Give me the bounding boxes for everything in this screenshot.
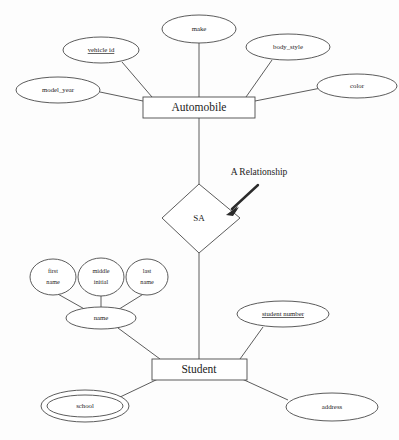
relationship-sa[interactable]: SA xyxy=(162,184,240,253)
connector-vehicle-id xyxy=(122,62,152,97)
connector-model-year xyxy=(100,92,143,101)
attribute-label-school: school xyxy=(76,402,94,409)
attribute-school[interactable]: school xyxy=(41,390,129,422)
annotation-arrow-shaft xyxy=(232,185,258,209)
annotation-a-relationship: A Relationship xyxy=(226,167,288,216)
sub-attribute-last-name[interactable]: last name xyxy=(126,259,168,295)
attribute-student-number[interactable]: student number xyxy=(237,301,329,327)
connector-student-number xyxy=(240,327,263,359)
sub-attribute-label-first-name-line1: first xyxy=(48,267,58,274)
attribute-vehicle-id[interactable]: vehicle id xyxy=(63,37,139,63)
sub-attribute-label-last-name-line1: last xyxy=(143,267,152,274)
er-diagram-svg: model_year vehicle id make body_style co… xyxy=(0,0,399,440)
attribute-address[interactable]: address xyxy=(286,393,378,421)
attribute-label-color: color xyxy=(350,82,365,89)
attribute-label-model-year: model_year xyxy=(42,86,75,93)
sub-attribute-label-middle-initial-line2: initial xyxy=(94,278,109,285)
connector-color xyxy=(255,88,321,101)
attribute-label-address: address xyxy=(322,403,343,410)
entity-label-automobile: Automobile xyxy=(172,101,227,113)
attribute-label-make: make xyxy=(192,25,207,32)
attribute-label-vehicle-id: vehicle id xyxy=(88,46,115,53)
connector-address xyxy=(242,379,288,400)
entity-student[interactable]: Student xyxy=(152,359,247,380)
sub-attribute-first-name[interactable]: first name xyxy=(30,259,76,295)
attribute-label-student-number: student number xyxy=(262,310,305,317)
sub-attribute-label-last-name-line2: name xyxy=(140,278,154,285)
connector-last-name xyxy=(116,293,145,311)
attribute-body-style[interactable]: body_style xyxy=(246,34,330,60)
relationship-label-sa: SA xyxy=(193,213,205,223)
attribute-name[interactable]: name xyxy=(66,307,136,329)
connector-school xyxy=(118,379,158,398)
connector-name xyxy=(118,328,160,359)
entity-automobile[interactable]: Automobile xyxy=(143,97,255,118)
connector-body-style xyxy=(246,60,272,97)
sub-attribute-label-middle-initial-line1: middle xyxy=(92,267,109,274)
er-diagram-canvas: model_year vehicle id make body_style co… xyxy=(0,0,399,440)
annotation-label: A Relationship xyxy=(231,167,288,177)
attribute-color[interactable]: color xyxy=(317,74,397,98)
sub-attribute-middle-initial[interactable]: middle initial xyxy=(78,258,124,296)
attribute-label-name: name xyxy=(94,314,109,321)
attribute-model-year[interactable]: model_year xyxy=(16,77,100,103)
attribute-make[interactable]: make xyxy=(162,15,236,43)
entity-label-student: Student xyxy=(181,363,217,375)
sub-attribute-label-first-name-line2: name xyxy=(46,278,60,285)
attribute-label-body-style: body_style xyxy=(273,43,303,50)
